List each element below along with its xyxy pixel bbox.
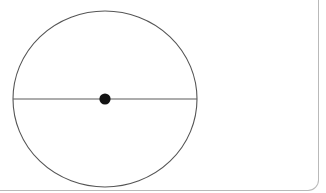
figure-canvas: Circle with horizontal diameter and mark… — [0, 0, 326, 193]
center-point-dot — [99, 93, 110, 104]
geometry-figure — [0, 0, 326, 193]
